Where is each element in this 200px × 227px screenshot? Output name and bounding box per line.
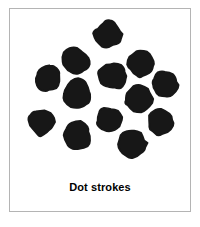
figure-caption: Dot strokes [10, 181, 190, 194]
dot-marker [93, 20, 123, 48]
dot-marker [153, 71, 179, 96]
dot-marker [149, 109, 174, 136]
dot-marker [28, 110, 55, 136]
dot-marker [36, 65, 60, 91]
dot-marker [97, 108, 122, 132]
dot-marker [62, 47, 90, 74]
dot-marker [63, 78, 90, 108]
figure-panel: Dot strokes [9, 8, 191, 212]
dot-marker [118, 130, 148, 158]
dot-marker [98, 63, 127, 88]
dot-marker [64, 121, 91, 150]
dot-marker-group [28, 20, 178, 158]
dot-marker [125, 85, 153, 113]
dot-marker [127, 50, 154, 77]
